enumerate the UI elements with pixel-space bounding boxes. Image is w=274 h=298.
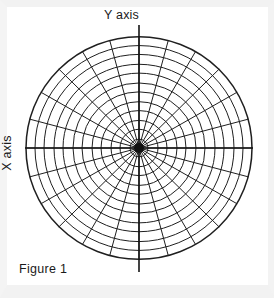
- polar-spoke: [139, 148, 237, 204]
- polar-spoke: [41, 92, 139, 148]
- polar-spoke: [110, 148, 139, 256]
- polar-spoke: [139, 148, 168, 256]
- polar-spoke: [139, 69, 219, 148]
- figure-page: Y axis X axis Figure 1: [0, 0, 274, 298]
- polar-spoke: [41, 148, 139, 204]
- polar-spoke: [139, 52, 196, 148]
- polar-spoke: [139, 119, 248, 148]
- polar-spoke: [139, 92, 237, 148]
- polar-spoke: [139, 148, 219, 227]
- polar-spoke: [83, 148, 140, 244]
- polar-spoke: [59, 69, 139, 148]
- x-axis-label: X axis: [0, 135, 14, 170]
- y-axis-label: Y axis: [104, 8, 139, 22]
- origin-hub: [134, 143, 144, 153]
- polar-spoke: [139, 40, 168, 148]
- polar-spoke: [110, 40, 139, 148]
- polar-spoke: [30, 119, 139, 148]
- polar-spoke: [30, 148, 139, 177]
- polar-spoke: [83, 52, 140, 148]
- polar-grid-diagram: [0, 0, 274, 298]
- polar-spoke: [139, 148, 196, 244]
- polar-spoke: [139, 148, 248, 177]
- figure-caption: Figure 1: [19, 262, 67, 276]
- polar-spoke: [59, 148, 139, 227]
